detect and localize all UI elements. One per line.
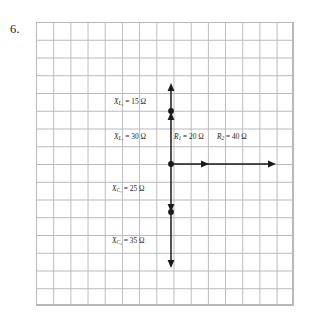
label-r1-value: = 20 Ω bbox=[181, 132, 204, 141]
point-marker-origin bbox=[168, 161, 174, 167]
label-xc2-value: = 35 Ω bbox=[122, 236, 145, 245]
label-r1: R1 = 20 Ω bbox=[174, 133, 204, 142]
label-r2: R2 = 40 Ω bbox=[217, 133, 247, 142]
point-marker-xc1-tip bbox=[168, 209, 174, 215]
arrowhead-xl2-up-icon bbox=[168, 83, 175, 91]
label-xc1-value: = 25 Ω bbox=[122, 184, 145, 193]
label-xl1-value: = 30 Ω bbox=[123, 132, 146, 141]
label-xc2: XC₂ = 35 Ω bbox=[112, 237, 145, 246]
arrowhead-r2-right-icon bbox=[268, 161, 276, 168]
arrowhead-xc2-down-icon bbox=[168, 260, 175, 268]
label-xl2: XL₂ = 15 Ω bbox=[114, 98, 146, 107]
phasor-axes-drawing bbox=[0, 0, 317, 320]
label-xl1: XL₁ = 30 Ω bbox=[114, 133, 146, 142]
arrowhead-r1-right-icon bbox=[201, 161, 209, 168]
label-r2-value: = 40 Ω bbox=[224, 132, 247, 141]
label-xl2-value: = 15 Ω bbox=[123, 97, 146, 106]
phasor-diagram-figure: 6. XL₂ = 15 Ω XL₁ = 30 Ω R1 = 20 Ω bbox=[0, 0, 317, 320]
point-marker-xl1-tip bbox=[168, 108, 174, 114]
label-xc1: XC₁ = 25 Ω bbox=[112, 185, 145, 194]
